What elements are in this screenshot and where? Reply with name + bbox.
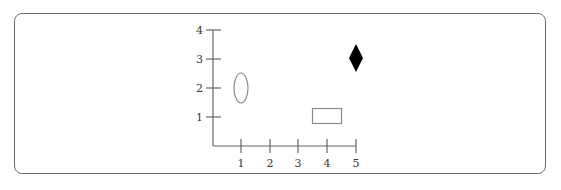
x-tick-label: 5 (353, 157, 360, 170)
x-tick-label: 1 (238, 157, 245, 170)
y-tick-label: 3 (196, 53, 203, 66)
y-tick-labels: 1 2 3 4 (196, 24, 203, 124)
ellipse-marker (234, 73, 248, 103)
diamond-marker (349, 44, 363, 72)
y-tick-label: 4 (196, 24, 203, 37)
plot-area: 1 2 3 4 1 2 3 4 5 (0, 0, 561, 190)
x-tick-label: 3 (295, 157, 302, 170)
x-tick-label: 2 (267, 157, 274, 170)
y-tick-label: 1 (196, 111, 203, 124)
x-tick-labels: 1 2 3 4 5 (238, 157, 360, 170)
y-tick-label: 2 (196, 82, 203, 95)
rectangle-marker (313, 109, 342, 124)
x-tick-label: 4 (324, 157, 331, 170)
